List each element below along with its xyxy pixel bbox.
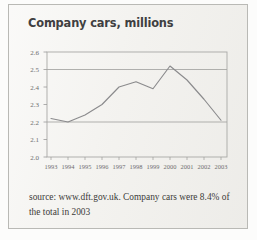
x-tick-label: 1994 xyxy=(62,163,76,170)
y-tick-label: 2.0 xyxy=(30,154,39,162)
chart-title: Company cars, millions xyxy=(28,16,173,30)
x-tick-label: 2002 xyxy=(198,163,211,170)
figure-page: Company cars, millions xyxy=(0,0,257,240)
chart-canvas: 2.6 2.5 2.4 2.3 2.2 2.1 2.0 xyxy=(19,33,241,178)
y-tick-label: 2.4 xyxy=(30,84,39,92)
source-caption: source: www.dft.gov.uk. Company cars wer… xyxy=(29,190,239,219)
y-tick-label: 2.3 xyxy=(30,101,39,109)
x-axis-labels: 1993 1994 1995 1996 1997 1998 1999 2000 … xyxy=(45,163,228,170)
x-tick-label: 1997 xyxy=(113,163,127,170)
y-tick-label: 2.5 xyxy=(30,66,39,74)
x-tick-label: 2003 xyxy=(215,163,228,170)
y-tick-label: 2.6 xyxy=(30,49,39,57)
figure-card: Company cars, millions xyxy=(8,4,248,229)
x-tick-label: 2000 xyxy=(164,163,177,170)
x-tick-label: 1999 xyxy=(147,163,160,170)
plot-frame xyxy=(47,52,227,157)
x-tick-label: 2001 xyxy=(181,163,194,170)
y-tick-label: 2.2 xyxy=(30,119,39,127)
y-tick-label: 2.1 xyxy=(30,136,39,144)
y-axis-labels: 2.6 2.5 2.4 2.3 2.2 2.1 2.0 xyxy=(30,49,39,162)
line-chart: 2.6 2.5 2.4 2.3 2.2 2.1 2.0 xyxy=(19,33,241,178)
x-tick-label: 1993 xyxy=(45,163,58,170)
x-tick-label: 1998 xyxy=(130,163,143,170)
plot-border xyxy=(47,52,227,157)
x-tick-label: 1995 xyxy=(79,163,92,170)
x-tick-label: 1996 xyxy=(96,163,109,170)
gridlines xyxy=(47,70,227,123)
data-series-line xyxy=(51,66,221,122)
y-axis-ticks xyxy=(44,52,48,157)
